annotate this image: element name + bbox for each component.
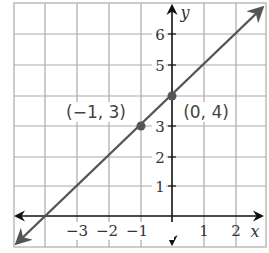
- x-tick-label: 2: [231, 222, 241, 240]
- point-label-neg1-3: (−1, 3): [66, 102, 126, 122]
- y-tick-label: 5: [155, 57, 165, 75]
- point-label-0-4: (0, 4): [183, 102, 229, 122]
- x-tick-label: −2: [96, 222, 118, 240]
- point-neg1-3: [137, 122, 146, 131]
- y-tick-label: 2: [155, 149, 165, 167]
- y-tick-label: 1: [155, 178, 165, 196]
- y-tick-label: 6: [155, 26, 165, 44]
- y-axis-label: y: [179, 3, 190, 22]
- x-tick-label: −3: [66, 222, 88, 240]
- x-axis-label: x: [250, 222, 259, 241]
- coordinate-graph: −3 −2 −1 1 2 x 6 5 3 2 1 y (−1, 3) (0, 4…: [0, 0, 269, 253]
- x-tick-label: 1: [199, 222, 209, 240]
- point-0-4: [168, 92, 177, 101]
- x-tick-label: −1: [126, 222, 148, 240]
- y-tick-label: 3: [155, 118, 165, 136]
